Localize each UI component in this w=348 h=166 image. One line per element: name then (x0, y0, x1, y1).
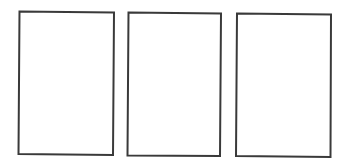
diagram-canvas (0, 0, 348, 166)
background (0, 0, 348, 166)
